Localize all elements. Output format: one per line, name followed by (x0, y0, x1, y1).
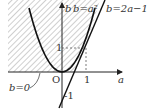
x-tick-1: 1 (84, 74, 90, 85)
graph-figure: b a O 1 1 -1 b=a² b=2a−1 b=0 (0, 0, 148, 110)
origin-label: O (52, 74, 60, 85)
b0-label: b=0 (9, 82, 31, 93)
y-tick-1: 1 (56, 42, 62, 53)
y-axis-label: b (65, 3, 71, 14)
b0-leader (30, 73, 40, 88)
line-label: b=2a−1 (106, 3, 148, 14)
parabola-label: b=a² (73, 3, 98, 14)
x-axis-label: a (118, 74, 124, 85)
graph-canvas: b a O 1 1 -1 b=a² b=2a−1 b=0 (0, 0, 148, 110)
y-intercept-label: -1 (64, 90, 74, 101)
